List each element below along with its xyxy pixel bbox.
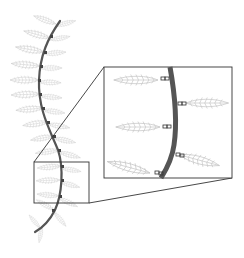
magnified-inset: [104, 67, 232, 178]
fern-diagram: [0, 0, 244, 258]
